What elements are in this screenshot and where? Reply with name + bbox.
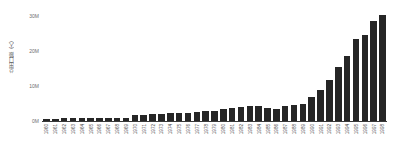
x-axis-tick-label: 1976: [185, 124, 190, 134]
x-axis-tick-label: 1967: [106, 124, 111, 134]
x-axis-tick-label: 1986: [274, 124, 279, 134]
x-tick-slot: 1972: [148, 123, 157, 153]
y-axis-tick-label: 30M: [29, 13, 39, 19]
bar-column: [157, 9, 166, 121]
x-tick-slot: 1969: [122, 123, 131, 153]
bar: [308, 97, 315, 121]
bar: [229, 108, 236, 121]
x-tick-slot: 1971: [139, 123, 148, 153]
x-tick-slot: 1995: [352, 123, 361, 153]
x-axis-tick-label: 1994: [345, 124, 350, 134]
bar-column: [192, 9, 201, 121]
x-tick-slot: 1997: [369, 123, 378, 153]
plot-area: 30M20M10M0M: [42, 9, 387, 121]
bar: [149, 114, 156, 121]
x-tick-slot: 1988: [290, 123, 299, 153]
x-axis-tick-label: 1974: [168, 124, 173, 134]
bar: [291, 105, 298, 121]
bar: [317, 90, 324, 122]
x-tick-slot: 1985: [263, 123, 272, 153]
x-axis-tick-label: 1978: [203, 124, 208, 134]
x-axis-tick-label: 1975: [177, 124, 182, 134]
x-tick-slot: 1981: [228, 123, 237, 153]
bar: [370, 21, 377, 121]
bar-column: [254, 9, 263, 121]
bar-column: [343, 9, 352, 121]
x-tick-slot: 1991: [316, 123, 325, 153]
x-tick-slot: 1983: [245, 123, 254, 153]
x-tick-slot: 1975: [175, 123, 184, 153]
bar-column: [51, 9, 60, 121]
bar-column: [219, 9, 228, 121]
x-tick-slot: 1978: [201, 123, 210, 153]
x-axis-tick-label: 1966: [97, 124, 102, 134]
x-axis-tick-label: 1992: [327, 124, 332, 134]
bar: [167, 113, 174, 121]
x-tick-slot: 1986: [272, 123, 281, 153]
bar: [379, 15, 386, 121]
x-tick-slot: 1960: [42, 123, 51, 153]
bar-column: [316, 9, 325, 121]
x-tick-slot: 1989: [298, 123, 307, 153]
bar: [247, 106, 254, 121]
bar-column: [130, 9, 139, 121]
bar-column: [272, 9, 281, 121]
bar-column: [184, 9, 193, 121]
x-tick-slot: 1993: [334, 123, 343, 153]
bar: [335, 67, 342, 121]
bar: [220, 109, 227, 121]
bar-series: [42, 9, 387, 121]
bar-column: [113, 9, 122, 121]
bar: [202, 111, 209, 121]
x-tick-slot: 1973: [157, 123, 166, 153]
x-axis-tick-label: 1989: [300, 124, 305, 134]
y-axis-tick-label: 20M: [29, 48, 39, 54]
x-tick-slot: 1990: [307, 123, 316, 153]
x-tick-slot: 1980: [219, 123, 228, 153]
bar: [326, 80, 333, 121]
x-tick-slot: 1998: [378, 123, 387, 153]
x-tick-slot: 1974: [166, 123, 175, 153]
x-tick-slot: 1967: [104, 123, 113, 153]
bar-column: [228, 9, 237, 121]
x-tick-slot: 1984: [254, 123, 263, 153]
bar: [353, 39, 360, 121]
x-tick-slot: 1979: [210, 123, 219, 153]
bar-column: [325, 9, 334, 121]
x-axis-tick-label: 1985: [265, 124, 270, 134]
x-axis-tick-label: 1982: [238, 124, 243, 134]
x-axis-tick-label: 1980: [221, 124, 226, 134]
x-axis-line: [42, 121, 387, 122]
bar: [264, 108, 271, 121]
x-tick-slot: 1982: [237, 123, 246, 153]
x-axis-tick-label: 1983: [247, 124, 252, 134]
x-axis-tick-label: 1990: [309, 124, 314, 134]
bar: [194, 112, 201, 121]
x-axis-tick-label: 1987: [283, 124, 288, 134]
bar: [238, 107, 245, 121]
bar: [176, 113, 183, 121]
x-axis-tick-label: 1962: [62, 124, 67, 134]
y-axis-tick-label: 10M: [29, 83, 39, 89]
bar-column: [175, 9, 184, 121]
x-axis-tick-label: 1971: [141, 124, 146, 134]
bar-column: [60, 9, 69, 121]
x-axis-tick-label: 1970: [132, 124, 137, 134]
bar-column: [334, 9, 343, 121]
x-axis-tick-label: 1991: [318, 124, 323, 134]
y-axis-label: 总出口额（人）: [9, 38, 21, 73]
bar-column: [77, 9, 86, 121]
x-tick-slot: 1992: [325, 123, 334, 153]
x-axis-tick-label: 1977: [194, 124, 199, 134]
bar-column: [369, 9, 378, 121]
bar: [158, 114, 165, 121]
x-tick-slot: 1996: [360, 123, 369, 153]
bar-column: [69, 9, 78, 121]
x-tick-slot: 1963: [69, 123, 78, 153]
x-axis-tick-label: 1988: [292, 124, 297, 134]
bar-column: [263, 9, 272, 121]
x-axis-tick-label: 1973: [159, 124, 164, 134]
x-tick-slot: 1965: [86, 123, 95, 153]
x-axis-tick-label: 1969: [124, 124, 129, 134]
bar-column: [122, 9, 131, 121]
